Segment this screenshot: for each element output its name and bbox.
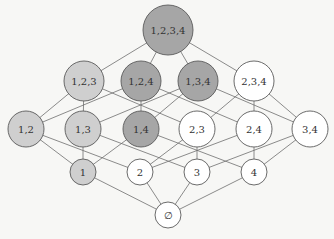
edge-1-empty (83, 172, 168, 215)
hasse-diagram: 1,2,3,41,2,31,2,41,3,42,3,41,21,31,42,32… (0, 0, 334, 239)
node-1: 1 (70, 159, 96, 185)
node-124: 1,2,4 (121, 61, 161, 101)
node-label: 1,2,3 (71, 76, 96, 87)
node-23: 2,3 (179, 111, 215, 147)
node-234: 2,3,4 (234, 61, 274, 101)
node-label: 1,3,4 (185, 76, 210, 87)
node-label: 2,3,4 (241, 76, 266, 87)
node-label: 1 (80, 167, 86, 178)
node-label: 1,2 (18, 124, 34, 135)
node-label: ∅ (164, 210, 173, 221)
node-1234: 1,2,3,4 (143, 5, 193, 55)
node-label: 1,2,3,4 (151, 25, 186, 36)
node-label: 2 (137, 167, 143, 178)
node-label: 2,4 (246, 124, 262, 135)
node-label: 4 (251, 167, 257, 178)
edge-4-empty (168, 172, 254, 215)
node-empty: ∅ (155, 202, 181, 228)
node-12: 1,2 (8, 111, 44, 147)
node-123: 1,2,3 (64, 61, 104, 101)
node-label: 3,4 (302, 124, 318, 135)
node-34: 3,4 (292, 111, 328, 147)
node-134: 1,3,4 (178, 61, 218, 101)
node-24: 2,4 (236, 111, 272, 147)
node-label: 1,4 (133, 124, 149, 135)
node-3: 3 (184, 159, 210, 185)
node-14: 1,4 (123, 111, 159, 147)
node-2: 2 (127, 159, 153, 185)
node-label: 3 (194, 167, 200, 178)
node-13: 1,3 (65, 111, 101, 147)
node-label: 2,3 (189, 124, 205, 135)
node-4: 4 (241, 159, 267, 185)
node-label: 1,2,4 (128, 76, 153, 87)
diagram-canvas: 1,2,3,41,2,31,2,41,3,42,3,41,21,31,42,32… (0, 0, 334, 239)
node-label: 1,3 (75, 124, 91, 135)
